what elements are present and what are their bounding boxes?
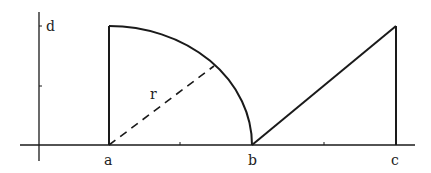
radius-dashed-line <box>109 66 214 145</box>
label-a: a <box>104 152 112 168</box>
label-b: b <box>248 152 257 168</box>
geometry-diagram: d r a b c <box>0 0 431 173</box>
quarter-arc <box>109 26 252 145</box>
label-r: r <box>150 86 157 102</box>
label-d: d <box>46 18 55 34</box>
hypotenuse-line <box>252 26 396 145</box>
label-c: c <box>391 152 399 168</box>
